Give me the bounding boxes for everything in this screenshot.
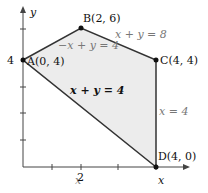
y-tick-label: 4 xyxy=(7,54,14,67)
x-tick-label: 2 xyxy=(77,171,84,184)
x-axis-arrow-icon xyxy=(183,164,190,170)
y-axis-arrow-icon xyxy=(20,6,26,13)
vertex-b-label: B(2, 6) xyxy=(83,12,121,25)
line-ab-label: −x + y = 4 xyxy=(58,39,119,52)
line-ad-label: x + y = 4 xyxy=(69,84,124,97)
vertex-d-label: D(4, 0) xyxy=(158,150,196,163)
line-cd-label: x = 4 xyxy=(159,105,188,118)
x-axis-label-end: x xyxy=(158,174,165,187)
y-axis-label: y xyxy=(29,6,37,19)
feasible-region-diagram: y x 2 x 4 A(0, 4) B(2, 6) C(4, 4) D(4, 0… xyxy=(0,0,208,193)
vertex-c-label: C(4, 4) xyxy=(160,54,198,67)
vertex-a-label: A(0, 4) xyxy=(26,55,65,68)
line-bc-label: x + y = 8 xyxy=(115,28,167,41)
